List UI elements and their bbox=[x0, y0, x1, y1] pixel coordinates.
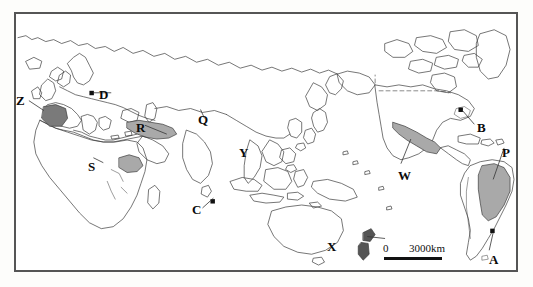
map-label-B: B bbox=[477, 121, 486, 134]
scale-bar-zero-label: 0 bbox=[383, 242, 389, 254]
map-label-S: S bbox=[88, 160, 95, 173]
scale-bar-max-label: 3000km bbox=[409, 242, 445, 254]
map-label-Q: Q bbox=[198, 113, 208, 126]
map-label-Z: Z bbox=[16, 94, 25, 107]
world-map-figure: Z D R Q Y S C X W B P A 0 3000km bbox=[0, 0, 533, 287]
map-label-R: R bbox=[136, 121, 146, 134]
region-anatolia bbox=[127, 120, 177, 139]
map-label-X: X bbox=[327, 240, 337, 253]
marker-la-plata bbox=[490, 229, 494, 233]
region-ethiopia bbox=[119, 155, 143, 173]
marker-great-lakes bbox=[458, 108, 462, 112]
map-label-P: P bbox=[502, 146, 510, 159]
map-label-A: A bbox=[489, 253, 499, 266]
scale-bar: 0 3000km bbox=[383, 242, 453, 255]
region-new-zealand bbox=[363, 229, 375, 242]
marker-central-europe bbox=[89, 91, 93, 95]
scale-bar-labels: 0 3000km bbox=[383, 242, 453, 255]
map-label-Y: Y bbox=[239, 146, 249, 159]
map-frame: Z D R Q Y S C X W B P A 0 3000km bbox=[14, 12, 518, 272]
map-label-W: W bbox=[398, 169, 411, 182]
map-label-C: C bbox=[192, 203, 202, 216]
map-coastlines bbox=[16, 14, 516, 270]
region-brazil bbox=[478, 164, 510, 221]
leader-Z bbox=[29, 101, 44, 111]
scale-bar-rule bbox=[384, 257, 442, 260]
map-label-D: D bbox=[99, 88, 109, 101]
leader-W bbox=[401, 139, 411, 164]
